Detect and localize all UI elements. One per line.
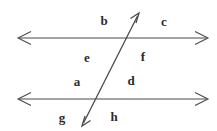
angle-label-h: h bbox=[110, 110, 117, 123]
angle-label-b: b bbox=[100, 14, 107, 27]
geometry-figure: b c e f a d g h bbox=[0, 0, 217, 131]
lower-parallel-line bbox=[18, 93, 208, 106]
angle-label-d: d bbox=[127, 74, 134, 87]
angle-label-g: g bbox=[59, 111, 66, 124]
transversal-segment bbox=[84, 16, 138, 123]
angle-label-c: c bbox=[161, 15, 167, 28]
figure-canvas bbox=[0, 0, 217, 131]
angle-label-a: a bbox=[74, 75, 81, 88]
angle-label-f: f bbox=[141, 50, 145, 63]
angle-label-e: e bbox=[84, 51, 90, 64]
upper-parallel-line bbox=[18, 32, 208, 45]
